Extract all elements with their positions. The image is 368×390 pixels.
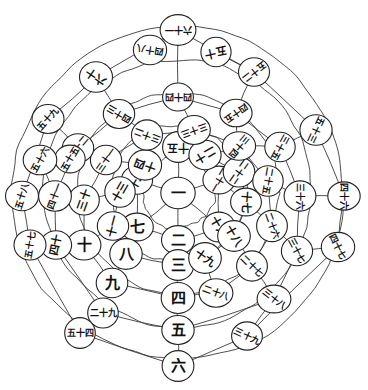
node-label: 六 — [171, 357, 186, 375]
number-node[interactable]: 二十八 — [199, 279, 233, 307]
number-node[interactable]: 四 — [161, 283, 195, 314]
number-node[interactable]: 三十一 — [90, 145, 121, 174]
radial-number-spiral: 一二七十二十五二十一十六三八十一十三十四二十二十二十七十八十九四九十三十三十一三… — [0, 0, 368, 390]
number-node[interactable]: 十四 — [128, 150, 161, 180]
number-node[interactable]: 二十七 — [237, 251, 268, 281]
number-node[interactable]: 十三 — [105, 177, 135, 208]
number-node[interactable]: 五十七 — [14, 230, 46, 260]
number-node[interactable]: 九 — [96, 268, 128, 298]
node-label: 四十六 — [339, 183, 350, 210]
node-label: 二 — [171, 231, 186, 249]
number-node[interactable]: 六 — [162, 351, 194, 382]
number-node[interactable]: 五十六 — [23, 145, 57, 175]
number-node[interactable]: 五十九 — [32, 105, 64, 134]
number-node[interactable]: 四十四 — [163, 83, 194, 111]
number-node[interactable]: 二十五 — [253, 166, 283, 197]
number-node[interactable]: 三十三 — [178, 116, 211, 145]
node-label: 十七 — [239, 190, 255, 213]
number-node[interactable]: 三十五 — [265, 132, 295, 162]
number-node[interactable]: 二十二 — [223, 157, 255, 187]
number-node[interactable]: 十九 — [189, 243, 222, 274]
number-node[interactable]: 五 — [162, 316, 194, 345]
number-nodes-layer: 一二七十二十五二十一十六三八十一十三十四二十二十二十七十八十九四九十三十三十一三… — [6, 15, 361, 382]
node-label: 七 — [130, 218, 145, 236]
number-node[interactable]: 四十六 — [328, 182, 360, 210]
node-label: 二十九 — [90, 307, 117, 318]
number-node[interactable]: 四十七 — [321, 232, 354, 261]
number-node[interactable]: 三十二 — [132, 120, 163, 150]
number-node[interactable]: 三十八 — [257, 285, 291, 313]
number-node[interactable]: 一 — [161, 177, 195, 208]
number-node[interactable]: 五十四 — [65, 318, 96, 349]
number-node[interactable]: 四十五 — [220, 99, 252, 127]
number-node[interactable]: 十一 — [97, 212, 128, 240]
number-node[interactable]: 三十六 — [284, 181, 316, 211]
number-node[interactable]: 六十 — [80, 62, 113, 93]
number-node[interactable]: 四十八 — [133, 35, 166, 64]
node-label: 五十四 — [67, 327, 94, 338]
number-node[interactable]: 四十三 — [103, 100, 134, 129]
number-node[interactable]: 五十三 — [300, 115, 332, 146]
number-node[interactable]: 十八 — [218, 221, 251, 252]
node-label: 四十四 — [165, 92, 192, 103]
node-label: 五 — [171, 321, 186, 339]
number-node[interactable]: 五十八 — [6, 180, 39, 210]
number-node[interactable]: 三十九 — [232, 322, 263, 350]
number-node[interactable]: 三十 — [69, 185, 100, 215]
node-label: 四 — [171, 289, 186, 307]
number-node[interactable]: 十 — [67, 230, 101, 260]
number-node[interactable]: 五十二 — [239, 58, 270, 87]
node-label: 三十六 — [295, 183, 306, 210]
number-node[interactable]: 十七 — [231, 188, 262, 216]
number-node[interactable]: 三十四 — [222, 132, 255, 161]
number-node[interactable]: 五十五 — [55, 144, 85, 173]
number-node[interactable]: 四十一 — [39, 181, 72, 211]
number-node[interactable]: 六十一 — [160, 15, 196, 46]
number-node[interactable]: 二十六 — [257, 210, 288, 241]
number-node[interactable]: 五十 — [201, 37, 231, 67]
node-label: 六十一 — [165, 25, 192, 36]
node-label: 十 — [77, 236, 92, 254]
node-label: 一 — [171, 184, 186, 202]
node-label: 三 — [171, 256, 186, 274]
diagram-canvas: 一二七十二十五二十一十六三八十一十三十四二十二十二十七十八十九四九十三十三十一三… — [0, 0, 368, 390]
number-node[interactable]: 八 — [110, 239, 142, 270]
node-label: 九 — [104, 274, 120, 292]
number-node[interactable]: 三十七 — [281, 236, 312, 266]
node-label: 八 — [118, 245, 135, 263]
